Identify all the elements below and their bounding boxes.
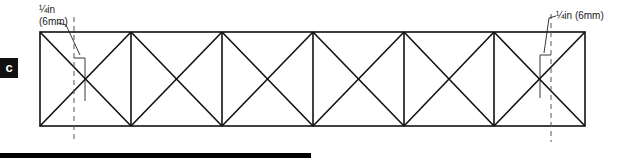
section-divider-bar xyxy=(0,153,311,158)
truss-diagram xyxy=(0,0,619,158)
